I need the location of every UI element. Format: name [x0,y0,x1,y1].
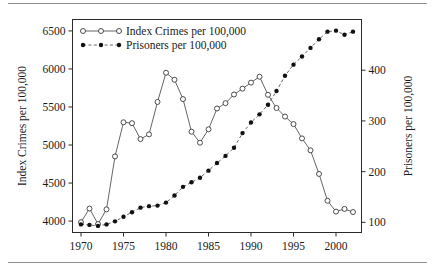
legend-marker [99,29,104,34]
data-point [130,121,135,126]
data-point [317,171,322,176]
data-point [121,120,126,125]
x-tick-label: 1975 [112,240,135,252]
data-point [266,103,270,107]
data-point [308,148,313,153]
data-point [155,99,160,104]
data-point [342,206,347,211]
x-tick-label: 1980 [155,240,178,252]
data-point [334,28,338,32]
legend-marker [117,29,122,34]
y-axis-left-title: Index Crimes per 100,000 [16,66,29,186]
y-tick-label: 6500 [43,25,66,37]
series-group [79,28,356,228]
data-point [325,29,329,33]
legend-label: Index Crimes per 100,000 [126,25,246,38]
data-point [240,86,245,91]
data-point [223,154,227,158]
plot-frame [73,20,362,233]
data-point [223,101,228,106]
data-point [104,207,109,212]
y-axis-left-ticks: 400045005000550060006500 [43,25,73,227]
data-point [274,89,278,93]
data-point [317,37,321,41]
data-point [206,127,211,132]
y-tick-label: 6000 [43,63,66,75]
x-tick-label: 1995 [282,240,305,252]
data-point [104,222,108,226]
data-point [155,203,159,207]
data-point [215,106,220,111]
y-axis-right-ticks: 100200300400 [362,64,387,228]
data-point [79,222,83,226]
data-point [130,210,134,214]
data-point [283,74,287,78]
data-point [147,204,151,208]
data-point [172,77,177,82]
data-point [121,215,125,219]
data-point [291,62,295,66]
chart-legend: Index Crimes per 100,000Prisoners per 10… [81,25,247,52]
data-point [206,168,210,172]
data-point [351,210,356,215]
legend-marker [117,43,121,47]
data-point [249,80,254,85]
data-point [283,114,288,119]
y-tick-label: 5000 [43,139,66,151]
legend-marker [81,43,85,47]
y2-tick-label: 100 [369,216,387,228]
x-tick-label: 2000 [325,240,348,252]
data-point [249,120,253,124]
data-point [291,122,296,127]
figure-container: 400045005000550060006500 100200300400 19… [0,0,435,275]
y2-tick-label: 400 [369,64,387,76]
data-point [215,161,219,165]
dual-axis-line-chart: 400045005000550060006500 100200300400 19… [0,0,435,275]
data-point [96,224,100,228]
data-point [232,92,237,97]
data-point [181,185,185,189]
data-point [240,131,244,135]
data-point [147,132,152,137]
data-point [274,105,279,110]
data-point [87,206,92,211]
data-point [87,223,91,227]
data-point [308,46,312,50]
y2-tick-label: 300 [369,115,387,127]
data-point [164,200,168,204]
x-tick-label: 1970 [70,240,93,252]
data-point [138,205,142,209]
legend-marker [99,43,103,47]
data-point [257,112,261,116]
data-point [189,129,194,134]
data-point [232,146,236,150]
data-point [266,92,271,97]
x-tick-label: 1990 [240,240,263,252]
data-point [198,176,202,180]
data-point [198,140,203,145]
legend-marker [81,29,86,34]
data-point [172,193,176,197]
data-point [189,180,193,184]
data-point [300,54,304,58]
data-point [334,209,339,214]
legend-label: Prisoners per 100,000 [126,39,227,52]
data-point [342,33,346,37]
data-point [257,74,262,79]
y-tick-label: 4500 [43,177,66,189]
data-point [181,97,186,102]
y-axis-right-title: Prisoners per 100,000 [402,75,415,176]
data-point [300,136,305,141]
data-point [113,219,117,223]
data-point [325,198,330,203]
x-axis-ticks: 1970197519801985199019952000 [70,233,348,252]
data-point [138,137,143,142]
data-point [113,154,118,159]
data-point [351,29,355,33]
y-tick-label: 5500 [43,101,66,113]
x-tick-label: 1985 [197,240,220,252]
data-point [164,70,169,75]
y-tick-label: 4000 [43,215,66,227]
y2-tick-label: 200 [369,166,387,178]
